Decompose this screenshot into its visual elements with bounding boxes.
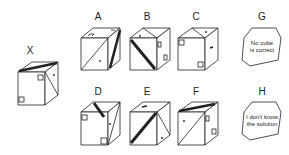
cube-a bbox=[81, 28, 120, 70]
label-x: X bbox=[20, 45, 40, 56]
option-g-text: No cube is correct bbox=[244, 40, 280, 54]
cube-d bbox=[81, 102, 120, 145]
cube-b bbox=[130, 28, 170, 70]
label-c: C bbox=[186, 11, 206, 22]
cube-f bbox=[178, 102, 218, 145]
label-f: F bbox=[186, 86, 206, 97]
cube-e bbox=[130, 102, 170, 145]
label-h: H bbox=[252, 86, 272, 97]
option-h-text: I don't know the solution bbox=[243, 114, 281, 128]
puzzle-figure bbox=[0, 0, 289, 155]
label-a: A bbox=[88, 11, 108, 22]
label-b: B bbox=[137, 11, 157, 22]
label-e: E bbox=[137, 86, 157, 97]
label-g: G bbox=[252, 11, 272, 22]
cube-c bbox=[178, 28, 218, 70]
label-d: D bbox=[88, 86, 108, 97]
cube-x bbox=[18, 62, 58, 105]
